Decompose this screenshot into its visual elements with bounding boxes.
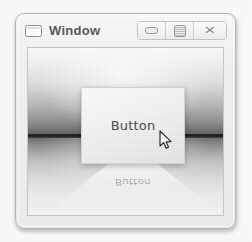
close-button[interactable]: ✕ — [194, 22, 226, 39]
window-bottom-edge — [16, 216, 235, 228]
button[interactable]: Button — [81, 87, 185, 164]
close-icon: ✕ — [204, 25, 216, 36]
maximize-button[interactable] — [166, 22, 194, 39]
window-title: Window — [49, 23, 101, 38]
title-bar[interactable]: Window ✕ — [16, 14, 235, 47]
minimize-icon — [145, 27, 158, 34]
window-restore-icon — [25, 25, 42, 37]
title-bar-left: Window — [25, 23, 137, 38]
arrow-pointer-icon — [159, 130, 173, 150]
page-background: Window ✕ Button — [0, 0, 252, 242]
application-window: Window ✕ Button — [15, 13, 236, 229]
maximize-icon — [174, 25, 186, 37]
window-controls: ✕ — [137, 21, 227, 40]
minimize-button[interactable] — [138, 22, 166, 39]
window-content-area: Button Button — [27, 47, 224, 216]
button-label: Button — [111, 118, 156, 133]
